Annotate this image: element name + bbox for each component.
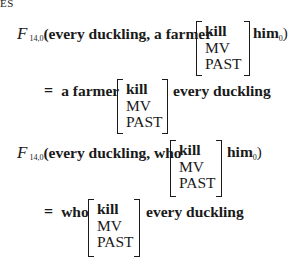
matrix-row-mv: MV (126, 98, 162, 115)
argument-text: (every duckling, a farmer (43, 25, 212, 42)
left-bracket (196, 21, 202, 76)
feature-matrix-2: kill MV PAST (117, 79, 168, 134)
pronoun-text: him (227, 143, 253, 160)
matrix-row-verb: kill (179, 142, 215, 159)
matrix-row-mv: MV (179, 159, 215, 176)
left-bracket (117, 79, 123, 134)
function-subscript: 14,0 (29, 153, 43, 162)
right-bracket (162, 79, 168, 134)
section-header-fragment: ES (0, 0, 14, 9)
right-bracket (216, 140, 222, 197)
feature-matrix-4: kill MV PAST (88, 199, 140, 257)
object-text: every duckling (146, 203, 244, 221)
matrix-row-verb: kill (97, 201, 133, 218)
left-bracket (170, 140, 176, 197)
function-symbol: F (17, 143, 27, 162)
equation-1-lhs: F14,0(every duckling, a farmer (17, 24, 212, 44)
matrix-row-mv: MV (205, 40, 241, 57)
right-bracket (134, 199, 140, 257)
equals-sign: = (44, 82, 53, 99)
equation-3-tail: him0) (227, 143, 262, 161)
matrix-row-tense: PAST (126, 114, 162, 131)
function-symbol: F (17, 24, 27, 43)
matrix-row-verb: kill (205, 23, 241, 40)
left-bracket (88, 199, 94, 257)
matrix-row-mv: MV (97, 218, 133, 235)
argument-text: (every duckling, who (43, 144, 181, 161)
pronoun-subscript: 0 (279, 34, 283, 43)
subject-text: who (61, 203, 89, 220)
equation-2-lhs: = a farmer (44, 82, 119, 100)
feature-matrix-3: kill MV PAST (170, 140, 222, 197)
matrix-row-tense: PAST (179, 175, 215, 192)
matrix-row-tense: PAST (97, 234, 133, 251)
feature-matrix-1: kill MV PAST (196, 21, 250, 76)
right-bracket (244, 21, 250, 76)
object-text: every duckling (173, 82, 271, 100)
matrix-row-tense: PAST (205, 56, 241, 73)
pronoun-subscript: 0 (253, 153, 257, 162)
equation-1-tail: him0) (253, 24, 288, 42)
matrix-row-verb: kill (126, 81, 162, 98)
equals-sign: = (44, 203, 53, 220)
close-paren: ) (257, 144, 262, 160)
equation-3-lhs: F14,0(every duckling, who (17, 143, 182, 163)
pronoun-text: him (253, 24, 279, 41)
close-paren: ) (283, 25, 288, 41)
subject-text: a farmer (61, 82, 119, 99)
equation-4-lhs: = who (44, 203, 89, 221)
function-subscript: 14,0 (29, 34, 43, 43)
